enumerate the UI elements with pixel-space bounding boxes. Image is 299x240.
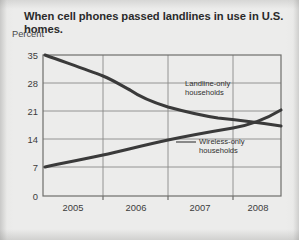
landline-annotation-line2: households — [185, 88, 230, 97]
plot-area: 35 28 21 14 7 0 2005 2006 2007 2008 — [0, 0, 299, 240]
x-axis-ticks — [103, 196, 233, 200]
landline-series-annotation: Landline-only households — [185, 79, 230, 97]
wireless-series-annotation: Wireless-only households — [199, 137, 245, 155]
landline-annotation-line1: Landline-only — [185, 79, 230, 88]
chart-svg — [0, 0, 299, 240]
chart-figure: When cell phones passed landlines in use… — [0, 0, 299, 240]
wireless-annotation-line2: households — [199, 146, 245, 155]
wireless-annotation-line1: Wireless-only — [199, 137, 245, 146]
